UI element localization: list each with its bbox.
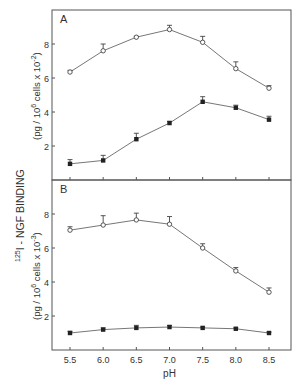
filled-circle-marker (234, 327, 238, 331)
filled-circle-marker (134, 326, 138, 330)
open-circle-marker (234, 269, 238, 273)
panel-b-ylabel-sup: -3 (30, 235, 37, 241)
open-circle-marker (200, 246, 204, 250)
series-line (70, 30, 269, 89)
y-tick-label: 2 (44, 312, 49, 322)
panel-b-ylabel-part: (pg / 10 (31, 288, 42, 320)
x-tick-label: 7.0 (163, 355, 176, 365)
open-circle-marker (134, 35, 138, 39)
shared-y-axis-title: 125I - NGF BINDING (14, 169, 26, 262)
x-tick-label: 6.0 (97, 355, 110, 365)
y-tick-label: 8 (44, 210, 49, 220)
panel-label: A (60, 13, 68, 25)
open-circle-marker (200, 40, 204, 44)
open-circle-marker (167, 222, 171, 226)
open-circle-marker (134, 218, 138, 222)
open-circle-marker (101, 223, 105, 227)
filled-circle-marker (167, 325, 171, 329)
panel-b-ylabel-part: ) (31, 232, 42, 235)
open-circle-marker (267, 86, 271, 90)
panel-label: B (60, 183, 67, 195)
series-open-circle (68, 213, 272, 294)
filled-circle-marker (234, 106, 238, 110)
plot-frame (52, 180, 291, 350)
y-tick-label: 6 (44, 244, 49, 254)
x-tick-label: 7.5 (196, 355, 209, 365)
series-filled-circle (68, 97, 272, 166)
panel-a: A2468 (44, 10, 291, 180)
filled-circle-marker (267, 117, 271, 121)
filled-circle-marker (167, 121, 171, 125)
series-filled-circle (68, 325, 272, 335)
x-axis-title: pH (163, 368, 176, 379)
y-tick-label: 6 (44, 74, 49, 84)
x-tick-label: 6.5 (130, 355, 143, 365)
series-open-circle (68, 25, 272, 90)
y-tick-label: 4 (44, 278, 49, 288)
panel-b-ylabel-sup: 6 (30, 284, 37, 288)
open-circle-marker (68, 70, 72, 74)
panel-b-ylabel-part: cells x 10 (31, 242, 42, 284)
panel-a-ylabel-part: ) (31, 52, 42, 55)
series-line (70, 102, 269, 164)
figure: A2468B24685.56.06.57.07.58.08.5pH (0, 0, 295, 381)
isotope-superscript: 125 (14, 250, 21, 262)
filled-circle-marker (68, 331, 72, 335)
x-tick-label: 8.0 (230, 355, 243, 365)
open-circle-marker (167, 27, 171, 31)
panel-b: B24685.56.06.57.07.58.08.5 (44, 180, 291, 365)
filled-circle-marker (68, 162, 72, 166)
panel-a-ylabel-sup: -2 (30, 55, 37, 61)
x-tick-label: 8.5 (263, 355, 276, 365)
panel-a-ylabel-sup: 6 (30, 104, 37, 108)
open-circle-marker (101, 49, 105, 53)
filled-circle-marker (200, 326, 204, 330)
x-tick-label: 5.5 (64, 355, 77, 365)
filled-circle-marker (101, 158, 105, 162)
filled-circle-marker (101, 327, 105, 331)
y-tick-label: 4 (44, 108, 49, 118)
open-circle-marker (68, 228, 72, 232)
panel-b-y-axis-title: (pg / 106 cells x 10-3) (30, 232, 42, 320)
panel-a-y-axis-title: (pg / 106 cells x 10-2) (30, 52, 42, 140)
series-line (70, 220, 269, 292)
open-circle-marker (234, 66, 238, 70)
filled-circle-marker (200, 100, 204, 104)
panel-a-ylabel-part: (pg / 10 (31, 108, 42, 140)
shared-y-axis-title-text: I - NGF BINDING (14, 169, 26, 250)
y-tick-label: 2 (44, 142, 49, 152)
filled-circle-marker (134, 137, 138, 141)
open-circle-marker (267, 290, 271, 294)
plot-frame (52, 10, 291, 180)
y-tick-label: 8 (44, 40, 49, 50)
panel-a-ylabel-part: cells x 10 (31, 62, 42, 104)
filled-circle-marker (267, 331, 271, 335)
